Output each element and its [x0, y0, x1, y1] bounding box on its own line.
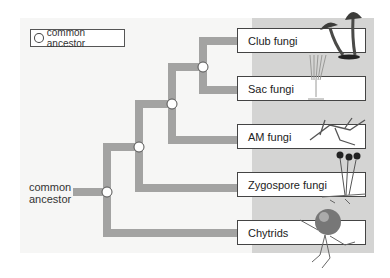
ascocarp-icon [308, 55, 326, 99]
mushroom-icon [320, 12, 362, 60]
organism-illustrations [0, 0, 390, 278]
branched-hyphae-icon [310, 118, 365, 145]
chytrid-sphere-icon [300, 209, 355, 268]
sporangia-icon [322, 152, 366, 205]
